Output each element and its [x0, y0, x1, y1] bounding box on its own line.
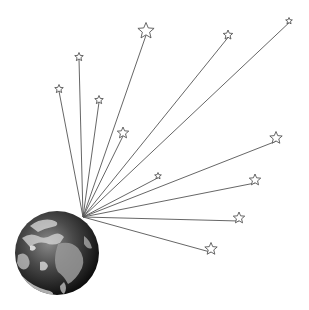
diagram-canvas: [0, 0, 309, 310]
earth-stars-diagram: [0, 0, 309, 310]
star-icon: [249, 174, 260, 185]
ray-line: [83, 35, 146, 217]
star-icon: [95, 96, 104, 104]
ray-line: [83, 23, 289, 217]
ray-line: [83, 217, 211, 252]
star-icon: [75, 53, 84, 61]
star-icon: [55, 85, 64, 93]
ray-line: [83, 38, 228, 218]
star-icon: [205, 243, 217, 255]
star-icon: [117, 127, 128, 138]
earth-globe-icon: [15, 211, 99, 296]
ray-line: [59, 91, 83, 217]
ray-line: [83, 217, 239, 221]
star-icon: [286, 18, 293, 24]
ray-lines: [59, 23, 289, 253]
ray-line: [83, 183, 255, 217]
star-icon: [223, 30, 233, 39]
ray-line: [83, 141, 276, 217]
star-icon: [155, 173, 162, 179]
ray-line: [79, 59, 83, 217]
